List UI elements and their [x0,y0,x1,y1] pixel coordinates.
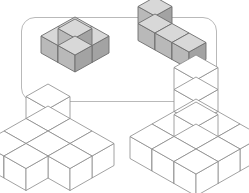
cube-stage [0,0,249,193]
answer-figure-right [130,55,249,193]
cube-puzzle-figure [0,0,249,193]
answer-figure-left [0,84,114,191]
prompt-figure-left [41,17,109,72]
